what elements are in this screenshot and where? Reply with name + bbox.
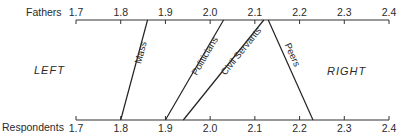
peers-line xyxy=(268,20,313,120)
fathers-tick-label: 2.0 xyxy=(203,6,218,18)
fathers-tick-label: 1.8 xyxy=(113,6,128,18)
mass-label: Mass xyxy=(132,40,149,65)
fathers-tick-label: 1.7 xyxy=(69,6,84,18)
peers-label: Peers xyxy=(283,41,303,68)
politicians-label: Politicians xyxy=(189,34,220,77)
fathers-tick-label: 2.3 xyxy=(337,6,352,18)
top-axis-title: Fathers xyxy=(26,6,62,18)
mass-line xyxy=(121,20,148,120)
respondents-tick-label: 2.3 xyxy=(337,122,352,134)
fathers-tick-label: 2.4 xyxy=(382,6,397,18)
bottom-axis-title: Respondents xyxy=(2,121,64,133)
respondents-tick-label: 2.1 xyxy=(248,122,263,134)
respondents-tick-label: 2.2 xyxy=(292,122,307,134)
left-annotation: LEFT xyxy=(34,64,65,76)
fathers-tick-label: 2.1 xyxy=(248,6,263,18)
right-annotation: RIGHT xyxy=(327,65,367,77)
civil-servants-label: Civil Servants xyxy=(218,25,263,77)
respondents-tick-label: 2.0 xyxy=(203,122,218,134)
respondents-tick-label: 2.4 xyxy=(382,122,397,134)
respondents-tick-label: 1.8 xyxy=(113,122,128,134)
respondents-tick-label: 1.9 xyxy=(158,122,173,134)
fathers-tick-label: 1.9 xyxy=(158,6,173,18)
fathers-tick-label: 2.2 xyxy=(292,6,307,18)
parallel-axis-chart: 1.71.81.92.02.12.22.32.41.71.81.92.02.12… xyxy=(0,0,413,138)
respondents-tick-label: 1.7 xyxy=(69,122,84,134)
